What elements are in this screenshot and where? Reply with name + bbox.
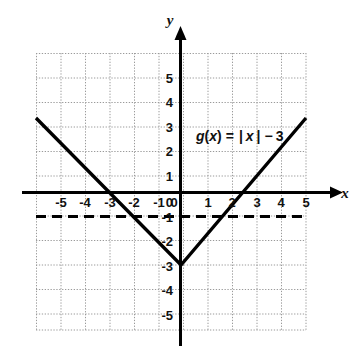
x-tick-label: 5 [302, 195, 309, 210]
minus-sign: − [265, 128, 273, 144]
y-tick-label: 4 [166, 95, 174, 110]
equals-sign: = [226, 128, 234, 144]
y-tick-label: -4 [161, 283, 173, 298]
y-tick-label: 1 [166, 169, 173, 184]
x-axis [22, 187, 343, 199]
x-tick-label: 2 [228, 195, 235, 210]
x-tick-label: 3 [253, 195, 260, 210]
svg-text:g(x)=|x|−3: g(x)=|x|−3 [195, 128, 284, 144]
graph-figure: -5 -4 -3 -2 -1 0 1 2 3 4 5 5 4 3 2 1 0 -… [0, 0, 359, 358]
y-tick-label: -2 [161, 234, 173, 249]
x-axis-label: x [340, 185, 349, 201]
y-tick-label: 2 [166, 144, 173, 159]
y-tick-label: 5 [166, 71, 173, 86]
function-name: g [195, 128, 205, 144]
x-tick-label: -5 [55, 195, 67, 210]
coordinate-plane-chart: -5 -4 -3 -2 -1 0 1 2 3 4 5 5 4 3 2 1 0 -… [0, 0, 359, 358]
y-axis-label: y [165, 12, 174, 28]
y-axis [175, 26, 187, 346]
x-tick-label: -1 [153, 195, 165, 210]
x-tick-labels: -5 -4 -3 -2 -1 0 1 2 3 4 5 [55, 195, 309, 210]
x-tick-label: -2 [128, 195, 140, 210]
y-tick-label: -1 [161, 210, 173, 225]
y-tick-label-zero: 0 [166, 195, 173, 210]
abs-bar-close: | [257, 128, 261, 144]
paren-close: ) [217, 128, 222, 144]
abs-inner-variable: x [245, 128, 255, 144]
abs-bar-open: | [239, 128, 243, 144]
y-tick-label: 3 [166, 120, 173, 135]
y-tick-label: -3 [161, 259, 173, 274]
function-label: g(x)=|x|−3 [195, 128, 284, 144]
y-tick-label: -5 [161, 308, 173, 323]
constant-term: 3 [276, 128, 284, 144]
x-tick-label: -3 [104, 195, 116, 210]
x-tick-label: 1 [204, 195, 211, 210]
x-tick-label: 4 [277, 195, 285, 210]
x-tick-label: -4 [79, 195, 91, 210]
